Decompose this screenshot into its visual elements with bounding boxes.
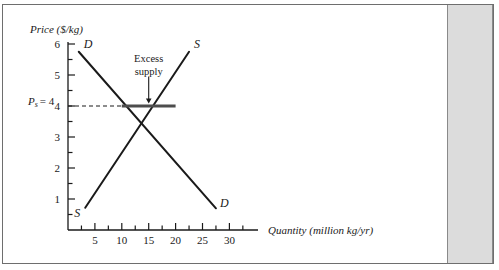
y-axis-ticks	[68, 44, 75, 215]
x-tick-label: 20	[170, 234, 182, 246]
y-tick-label: 6	[55, 38, 61, 50]
excess-supply-text-line2: supply	[135, 66, 164, 77]
excess-supply-text-line1: Excess	[134, 53, 163, 64]
y-tick-label: 3	[55, 131, 61, 143]
supply-demand-chart: 123456 51015202530 Price ($/kg) Quantity…	[0, 0, 499, 270]
support-price-value: = 4	[40, 95, 55, 107]
excess-supply-arrow-head	[146, 99, 152, 104]
x-axis-ticks	[81, 223, 242, 230]
y-axis-title: Price ($/kg)	[29, 23, 83, 36]
figure-root: 123456 51015202530 Price ($/kg) Quantity…	[0, 0, 499, 270]
y-tick-label: 5	[55, 69, 61, 81]
support-price-subscript: s	[35, 100, 38, 109]
x-tick-label: 10	[116, 234, 128, 246]
x-tick-label: 5	[92, 234, 98, 246]
x-axis-title: Quantity (million kg/yr)	[268, 224, 373, 237]
x-tick-label: 15	[143, 234, 155, 246]
support-price-label: Ps= 4	[27, 95, 55, 109]
demand-curve-label-top: D	[83, 37, 93, 51]
x-tick-label: 30	[224, 234, 236, 246]
y-tick-label: 1	[55, 193, 61, 205]
x-tick-label: 25	[197, 234, 209, 246]
y-tick-label: 2	[55, 162, 61, 174]
axes-group	[68, 42, 258, 230]
demand-curve-label-bottom: D	[219, 196, 229, 210]
y-tick-label: 4	[55, 100, 61, 112]
y-axis-tick-labels: 123456	[55, 38, 61, 205]
x-axis-tick-labels: 51015202530	[92, 234, 235, 246]
supply-curve-label-bottom: S	[74, 206, 80, 220]
supply-curve-label-top: S	[194, 37, 200, 51]
